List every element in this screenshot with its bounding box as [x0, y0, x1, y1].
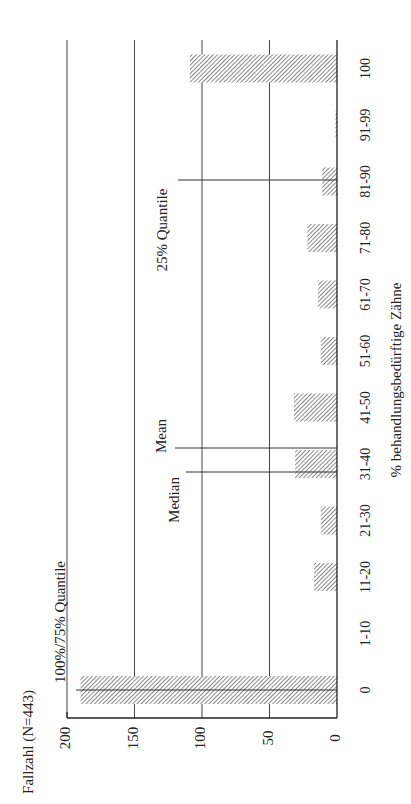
bar-100	[190, 55, 337, 83]
bars	[81, 55, 338, 705]
chart-title: Fallzahl (N=443)	[20, 690, 37, 794]
x-tick-label: 81-90	[358, 165, 373, 198]
bar-71-80	[307, 224, 337, 252]
y-tick-label: 100	[192, 727, 208, 750]
bar-11-20	[314, 563, 337, 591]
x-tick-label: 51-60	[358, 335, 373, 368]
x-tick-label: 1-10	[358, 621, 373, 647]
y-tick-label: 50	[260, 731, 276, 746]
x-axis-title: % behandlungsbedürftige Zähne	[388, 282, 404, 477]
gridlines	[67, 40, 270, 718]
y-tick-label: 0	[327, 734, 343, 742]
x-tick-label: 71-80	[358, 222, 373, 255]
x-tick-label: 100	[358, 58, 373, 79]
x-tick-label: 21-30	[358, 504, 373, 537]
x-tick-label: 61-70	[358, 278, 373, 311]
bar-21-30	[321, 507, 337, 535]
x-tick-label: 0	[358, 687, 373, 694]
x-tick-label: 31-40	[358, 448, 373, 481]
annotation-quantile-25: 25% Quantile	[154, 188, 170, 271]
bar-51-60	[321, 337, 337, 365]
x-tick-label: 11-20	[358, 561, 373, 593]
annotation-mean: Mean	[153, 418, 169, 453]
x-tick-label: 41-50	[358, 391, 373, 424]
bar-chart: 05010015020001-1011-2021-3031-4041-5051-…	[0, 0, 411, 804]
bar-81-90	[322, 168, 337, 196]
bar-41-50	[294, 394, 337, 422]
y-tick-label: 200	[57, 727, 73, 750]
annotation-quantile-100-75: 100%/75% Quantile	[52, 561, 68, 683]
x-tick-label: 91-99	[358, 109, 373, 142]
annotation-median: Median	[166, 477, 182, 523]
y-tick-label: 150	[125, 727, 141, 750]
bar-61-70	[318, 281, 337, 309]
bar-31-40	[295, 450, 337, 478]
quantile-markers	[76, 180, 337, 690]
